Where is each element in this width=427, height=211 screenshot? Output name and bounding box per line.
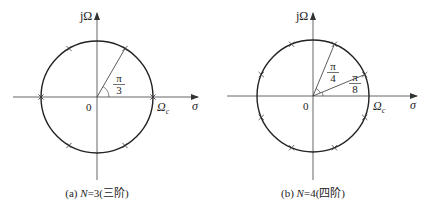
angle-arc-pi-8 — [322, 92, 323, 96]
x-axis-label: σ — [410, 98, 417, 112]
angle-arc — [103, 87, 109, 97]
svg-text:8: 8 — [352, 83, 358, 95]
butterworth-pole-diagrams: jΩ σ 0 Ωc π 3 (a) N=3(三阶) jΩ σ 0 Ωc — [0, 0, 427, 211]
svg-text:π: π — [330, 60, 336, 72]
x-axis-label: σ — [192, 99, 199, 113]
cutoff-label: Ωc — [157, 100, 170, 116]
origin-label: 0 — [303, 100, 309, 112]
y-axis-label: jΩ — [295, 9, 308, 23]
svg-text:π: π — [352, 71, 358, 83]
angle-label-pi-4: π 4 — [327, 60, 339, 84]
panel-b: jΩ σ 0 Ωc π 4 π 8 (b) N=4(四阶) — [227, 9, 417, 200]
angle-arc-pi-4 — [316, 89, 320, 93]
caption-b: (b) N=4(四阶) — [281, 186, 345, 200]
panel-a: jΩ σ 0 Ωc π 3 (a) N=3(三阶) — [13, 9, 199, 200]
cutoff-label: Ωc — [373, 99, 386, 115]
origin-label: 0 — [86, 101, 92, 113]
caption-a: (a) N=3(三阶) — [65, 186, 129, 200]
svg-text:π: π — [116, 72, 122, 84]
angle-label-pi-3: π 3 — [113, 72, 125, 96]
y-axis-label: jΩ — [79, 9, 92, 23]
svg-text:3: 3 — [116, 84, 122, 96]
angle-label-pi-8: π 8 — [349, 71, 361, 95]
svg-text:4: 4 — [330, 72, 336, 84]
